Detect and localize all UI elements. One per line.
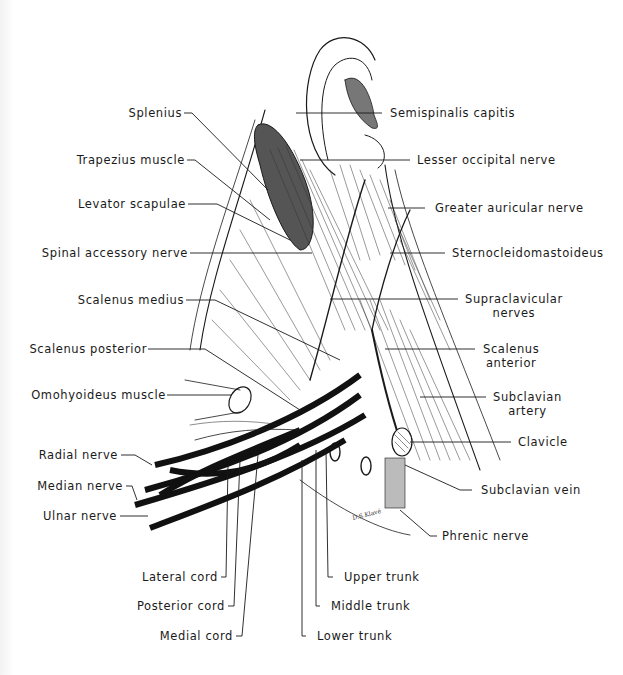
label-levator-scapulae: Levator scapulae — [78, 197, 186, 211]
label-supraclavicular-line1: Supraclavicular — [465, 292, 563, 306]
label-trapezius-muscle: Trapezius muscle — [77, 153, 185, 167]
label-subclavian-artery: Subclavian artery — [493, 390, 562, 418]
label-ulnar-nerve: Ulnar nerve — [43, 509, 117, 523]
label-omohyoideus-muscle: Omohyoideus muscle — [31, 388, 166, 402]
label-spinal-accessory-nerve: Spinal accessory nerve — [42, 246, 188, 260]
label-medial-cord: Medial cord — [160, 629, 233, 643]
label-median-nerve: Median nerve — [37, 479, 123, 493]
label-scalenus-anterior-line2: anterior — [483, 356, 539, 370]
ear-drawing — [306, 38, 384, 175]
label-lateral-cord: Lateral cord — [142, 570, 218, 584]
label-scalenus-posterior: Scalenus posterior — [29, 342, 147, 356]
anatomical-illustration: D.S.Klavé — [0, 0, 623, 675]
label-semispinalis-capitis: Semispinalis capitis — [390, 106, 515, 120]
label-subclavian-artery-line1: Subclavian — [493, 390, 562, 404]
label-supraclavicular-line2: nerves — [465, 306, 563, 320]
label-scalenus-anterior-line1: Scalenus — [483, 342, 539, 356]
label-sternocleidomastoideus: Sternocleidomastoideus — [452, 246, 604, 260]
label-radial-nerve: Radial nerve — [39, 448, 118, 462]
label-lesser-occipital-nerve: Lesser occipital nerve — [417, 153, 556, 167]
label-clavicle: Clavicle — [518, 435, 568, 449]
label-greater-auricular-nerve: Greater auricular nerve — [435, 201, 584, 215]
label-supraclavicular-nerves: Supraclavicular nerves — [465, 292, 563, 320]
svg-text:D.S.Klavé: D.S.Klavé — [352, 507, 382, 521]
label-subclavian-vein: Subclavian vein — [481, 483, 581, 497]
label-splenius: Splenius — [129, 106, 182, 120]
label-scalenus-medius: Scalenus medius — [78, 293, 184, 307]
label-phrenic-nerve: Phrenic nerve — [442, 529, 529, 543]
label-upper-trunk: Upper trunk — [344, 570, 420, 584]
label-middle-trunk: Middle trunk — [331, 599, 410, 613]
label-posterior-cord: Posterior cord — [137, 599, 225, 613]
label-scalenus-anterior: Scalenus anterior — [483, 342, 539, 370]
label-lower-trunk: Lower trunk — [317, 629, 392, 643]
label-subclavian-artery-line2: artery — [493, 404, 562, 418]
